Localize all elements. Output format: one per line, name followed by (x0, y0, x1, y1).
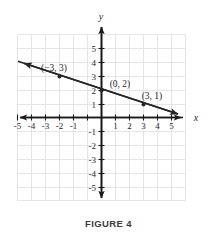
x-tick-label-3: 3 (141, 121, 146, 131)
point-marker-3-1 (142, 103, 146, 107)
figure-container: -5 -4 -3 -2 -1 1 2 3 4 5 5 4 3 2 1 -1 -2… (0, 0, 217, 245)
point-marker-0-2 (100, 89, 104, 93)
x-tick-label-neg4: -4 (28, 121, 36, 131)
y-tick-label-neg3: -3 (89, 155, 97, 165)
y-tick-label-neg4: -4 (89, 169, 97, 179)
x-tick-label-4: 4 (155, 121, 160, 131)
x-tick-label-2: 2 (127, 121, 132, 131)
point-label-neg3-3: (−3, 3) (41, 63, 67, 74)
x-tick-label-1: 1 (113, 121, 118, 131)
x-tick-label-neg1: -1 (70, 121, 78, 131)
y-tick-label-neg5: -5 (89, 183, 97, 193)
point-marker-neg3-3 (58, 75, 62, 79)
y-tick-label-neg2: -2 (89, 141, 97, 151)
figure-caption: FIGURE 4 (0, 218, 217, 229)
y-axis-label: y (98, 11, 104, 22)
y-tick-label-4: 4 (92, 58, 97, 68)
y-tick-label-1: 1 (92, 100, 97, 110)
y-tick-label-neg1: -1 (89, 127, 97, 137)
x-tick-label-neg3: -3 (42, 121, 50, 131)
coordinate-plane-graph: -5 -4 -3 -2 -1 1 2 3 4 5 5 4 3 2 1 -1 -2… (0, 0, 217, 245)
y-tick-label-3: 3 (92, 72, 97, 82)
x-tick-label-neg5: -5 (14, 121, 22, 131)
y-tick-label-5: 5 (92, 44, 97, 54)
x-tick-label-neg2: -2 (56, 121, 64, 131)
point-label-0-2: (0, 2) (110, 79, 131, 90)
x-axis-label: x (193, 112, 199, 123)
x-tick-label-5: 5 (169, 121, 174, 131)
point-label-3-1: (3, 1) (142, 91, 163, 102)
